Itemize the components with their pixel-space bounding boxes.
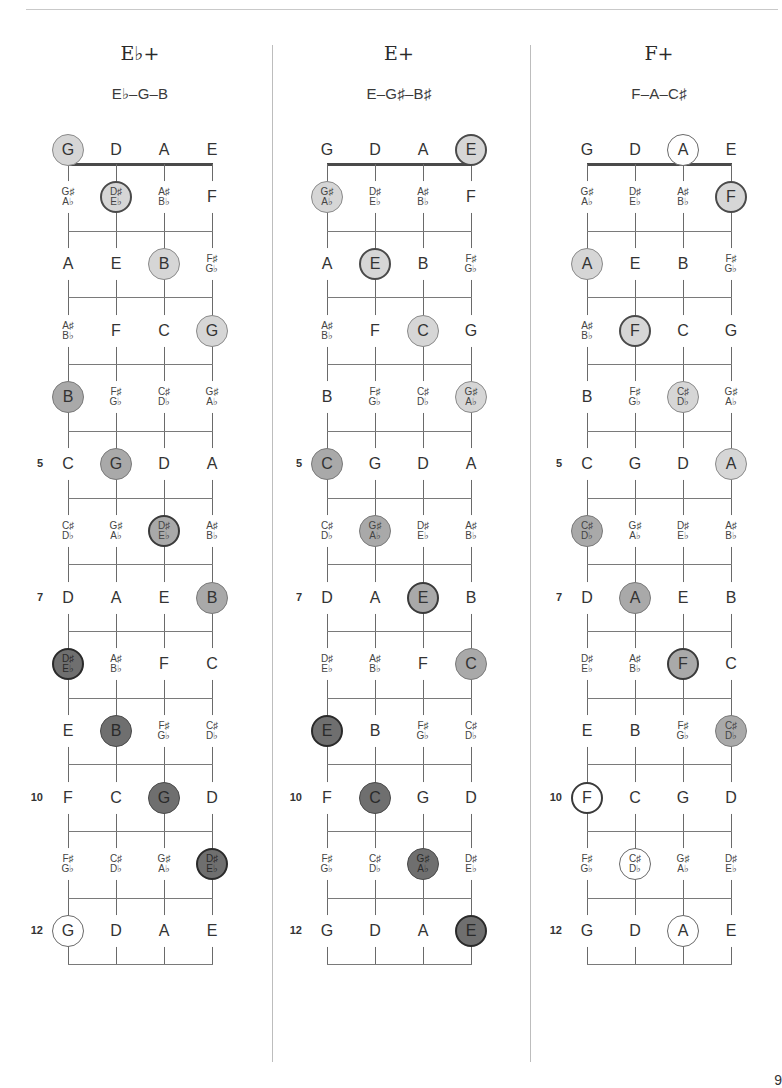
- note-name: C: [465, 656, 477, 672]
- chord-tone-marker: A: [571, 248, 603, 280]
- chord-tone-marker: G: [100, 448, 132, 480]
- note-name: C: [629, 790, 641, 806]
- note-name: E: [207, 142, 218, 158]
- flat-name: D♭: [158, 397, 170, 407]
- fret-line: [327, 898, 472, 899]
- note-name: B: [159, 256, 170, 272]
- flat-name: A♭: [581, 197, 593, 207]
- note-name: E: [726, 923, 737, 939]
- fret-note: G♯A♭: [715, 381, 747, 413]
- chord-tone-marker: F: [667, 648, 699, 680]
- note-name: A: [466, 456, 477, 472]
- fret-note: D: [407, 448, 439, 480]
- note-name: G: [158, 790, 170, 806]
- fret-note: G♯A♭: [571, 181, 603, 213]
- fret-line: [327, 964, 472, 965]
- fret-line: [68, 764, 213, 765]
- flat-name: E♭: [629, 197, 641, 207]
- fret-note: D: [196, 782, 228, 814]
- chord-tone-marker: G: [196, 315, 228, 347]
- fret-note: F: [52, 782, 84, 814]
- chord-tone-marker: G♯A♭: [455, 381, 487, 413]
- note-name: A: [370, 590, 381, 606]
- nut: [327, 163, 472, 166]
- chord-tone-marker: F: [715, 181, 747, 213]
- fret-note: G: [455, 315, 487, 347]
- nut: [587, 163, 732, 166]
- flat-name: E♭: [677, 531, 689, 541]
- note-name: F: [207, 189, 217, 205]
- fret-note: B: [667, 248, 699, 280]
- fret-note: C♯D♭: [407, 381, 439, 413]
- flat-name: E♭: [725, 864, 737, 874]
- fret-line: [587, 898, 732, 899]
- page-number: 9: [774, 1072, 782, 1088]
- fret-note: G♯A♭: [52, 181, 84, 213]
- fret-note: C: [196, 648, 228, 680]
- note-name: A: [63, 256, 74, 272]
- note-name: E: [726, 142, 737, 158]
- flat-name: G♭: [581, 864, 594, 874]
- fret-note: A♯B♭: [571, 315, 603, 347]
- column-separator: [272, 45, 273, 1062]
- fret-line: [587, 231, 732, 232]
- chord-tone-marker: B: [100, 715, 132, 747]
- fret-note: D♯E♭: [715, 848, 747, 880]
- flat-name: E♭: [158, 531, 170, 541]
- fret-note: D♯E♭: [311, 648, 343, 680]
- fret-note: A: [311, 248, 343, 280]
- note-name: E: [630, 256, 641, 272]
- fret-note: B: [407, 248, 439, 280]
- column-separator: [530, 45, 531, 1062]
- flat-name: G♭: [677, 731, 690, 741]
- fret-note: B: [715, 582, 747, 614]
- fret-note: A♯B♭: [455, 515, 487, 547]
- fret-line: [68, 898, 213, 899]
- note-name: A: [418, 923, 429, 939]
- note-name: D: [369, 142, 381, 158]
- fret-note: E: [100, 248, 132, 280]
- fret-note: A: [148, 915, 180, 947]
- note-name: F: [370, 323, 380, 339]
- chord-tone-marker: D♯E♭: [196, 848, 228, 880]
- fret-note: E: [667, 582, 699, 614]
- note-name: C: [321, 456, 333, 472]
- chord-tone-marker: G: [52, 915, 84, 947]
- fret-line: [587, 431, 732, 432]
- fret-note: D: [100, 134, 132, 166]
- flat-name: B♭: [725, 531, 737, 541]
- flat-name: A♭: [677, 864, 689, 874]
- fret-line: [68, 364, 213, 365]
- chord-tone-marker: C: [311, 448, 343, 480]
- fret-line: [587, 364, 732, 365]
- fret-number: 10: [282, 791, 302, 803]
- fret-note: E: [148, 582, 180, 614]
- fret-note: A: [455, 448, 487, 480]
- fret-line: [68, 297, 213, 298]
- note-name: C: [206, 656, 218, 672]
- fret-note: A: [148, 134, 180, 166]
- fret-note: E: [571, 715, 603, 747]
- note-name: E: [582, 723, 593, 739]
- fret-note: F♯G♭: [619, 381, 651, 413]
- chord-tone-marker: E: [359, 248, 391, 280]
- flat-name: B♭: [158, 197, 170, 207]
- fret-line: [587, 831, 732, 832]
- note-name: G: [62, 142, 74, 158]
- note-name: E: [159, 590, 170, 606]
- note-name: A: [207, 456, 218, 472]
- fret-note: D: [455, 782, 487, 814]
- fret-line: [327, 297, 472, 298]
- fret-note: G: [667, 782, 699, 814]
- flat-name: B♭: [677, 197, 689, 207]
- fret-note: F♯G♭: [148, 715, 180, 747]
- note-name: G: [369, 456, 381, 472]
- flat-name: B♭: [417, 197, 429, 207]
- flat-name: G♭: [158, 731, 171, 741]
- fret-note: E: [52, 715, 84, 747]
- fret-number: 7: [23, 591, 43, 603]
- note-name: B: [466, 590, 477, 606]
- fret-number: 7: [542, 591, 562, 603]
- fret-note: G♯A♭: [100, 515, 132, 547]
- fret-line: [587, 297, 732, 298]
